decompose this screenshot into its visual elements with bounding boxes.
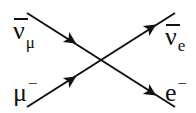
label-main: ν (13, 16, 25, 45)
overbar (14, 18, 28, 20)
arrow-icon-antinu-mu (63, 32, 80, 49)
label-electron: e− (165, 80, 186, 106)
label-antineutrino-mu: νμ (13, 18, 34, 44)
label-antineutrino-e: νe (165, 24, 184, 50)
arrow-icon-antinu-e (143, 20, 160, 37)
label-main: e (165, 78, 177, 107)
overbar (166, 24, 180, 26)
arrow-icon-electron (143, 84, 160, 101)
label-muon: μ− (13, 80, 37, 106)
label-sup: − (28, 74, 38, 93)
label-main: μ (13, 78, 27, 107)
arrow-icon-muon (63, 72, 80, 89)
label-sup: − (178, 74, 188, 93)
label-main: ν (165, 22, 177, 51)
label-sub: e (178, 36, 186, 55)
label-sub: μ (26, 33, 35, 52)
